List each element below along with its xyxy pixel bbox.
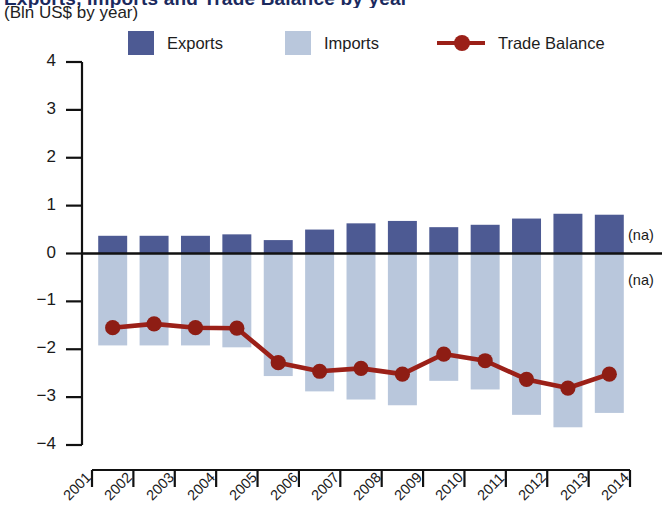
trade-balance-chart: Exports, Imports and Trade Balance by ye… [0,0,671,513]
trade-balance-marker [353,361,368,376]
trade-balance-marker [229,321,244,336]
bar-imports [471,254,500,390]
bar-imports [553,254,582,428]
bar-exports [471,225,500,254]
y-axis-tick-label: 1 [26,195,56,215]
bar-imports [429,254,458,381]
bar-exports [429,227,458,253]
y-axis-tick-label: −3 [26,386,56,406]
trade-balance-marker [188,320,203,335]
y-axis-tick-label: −2 [26,338,56,358]
trade-balance-marker [560,380,575,395]
y-axis-tick-label: 4 [26,51,56,71]
bar-exports [98,236,127,254]
plot-canvas [0,0,671,513]
trade-balance-marker [436,346,451,361]
bar-exports [388,221,417,254]
y-axis-tick-label: −4 [26,434,56,454]
trade-balance-marker [271,355,286,370]
bar-imports [140,254,169,346]
bar-exports [264,240,293,253]
bar-imports [595,254,624,413]
bar-exports [305,230,334,254]
y-axis-tick-label: 3 [26,99,56,119]
trade-balance-marker [519,372,534,387]
bar-imports [512,254,541,415]
trade-balance-marker [395,367,410,382]
trade-balance-marker [478,353,493,368]
na-imports-label: (na) [628,272,654,288]
trade-balance-marker [312,364,327,379]
y-axis-tick-label: −1 [26,290,56,310]
bar-exports [222,234,251,253]
bar-imports [347,254,376,400]
na-exports-label: (na) [628,227,654,243]
bar-exports [553,214,582,254]
bar-imports [388,254,417,406]
trade-balance-marker [146,316,161,331]
bar-exports [595,215,624,254]
trade-balance-marker [105,320,120,335]
bar-exports [140,236,169,254]
y-axis-tick-label: 2 [26,147,56,167]
bar-exports [181,236,210,254]
trade-balance-marker [602,367,617,382]
y-axis-tick-label: 0 [26,243,56,263]
bar-exports [347,223,376,253]
plot-area: 43210−1−2−3−4200120022003200420052006200… [0,0,671,513]
bar-exports [512,219,541,254]
